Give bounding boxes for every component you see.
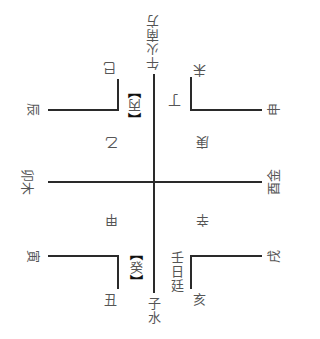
label-branch-shen: 申 <box>267 103 280 116</box>
label-west-metal: 酉金 <box>267 169 280 195</box>
label-branch-chen: 辰 <box>27 103 40 116</box>
bottom-right-bracket-horizontal <box>190 255 262 257</box>
horizontal-axis-line <box>48 181 262 183</box>
label-branch-si: 巳 <box>103 62 116 75</box>
label-branch-wei: 未 <box>193 64 206 77</box>
bottom-left-bracket-horizontal <box>48 255 119 257</box>
label-stem-gui: 【癸】 <box>129 247 142 289</box>
top-left-bracket-horizontal <box>48 109 119 111</box>
label-ren-ri-ting: 壬日廷 <box>170 251 183 293</box>
label-branch-xu: 戌 <box>267 250 280 263</box>
bracket-open: 【 <box>127 112 142 126</box>
top-left-bracket-vertical <box>117 79 119 111</box>
label-stem-yi: 乙 <box>105 136 118 149</box>
top-right-bracket-horizontal <box>190 109 262 111</box>
label-east-wood: 卯木 <box>21 169 34 195</box>
label-stem-bing: 【丙】 <box>128 84 141 126</box>
stem-bing-char: 丙 <box>127 98 142 112</box>
stem-gui-char: 癸 <box>128 261 143 275</box>
label-branch-yin: 寅 <box>27 250 40 263</box>
vertical-axis-line <box>153 74 155 293</box>
bottom-right-bracket-vertical <box>190 255 192 289</box>
bracket-open: 【 <box>128 247 143 261</box>
bottom-left-bracket-vertical <box>117 255 119 289</box>
label-stem-xin: 辛 <box>196 214 209 227</box>
label-branch-hai: 亥 <box>193 293 206 306</box>
top-right-bracket-vertical <box>190 77 192 111</box>
label-stem-jia: 甲 <box>105 214 118 227</box>
label-north-water: 子水 <box>147 297 160 325</box>
label-stem-geng: 庚 <box>196 136 209 149</box>
label-stem-ding: 丁 <box>168 94 181 107</box>
label-south-fire: 午火南方 <box>146 14 159 70</box>
bracket-close: 】 <box>127 84 142 98</box>
label-branch-chou: 丑 <box>104 293 117 306</box>
bracket-close: 】 <box>128 275 143 289</box>
